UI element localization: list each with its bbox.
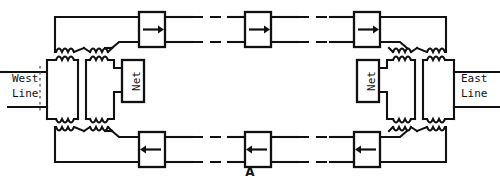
east-coil-tr-inner [423, 57, 454, 61]
east-coil-bl-outer [389, 127, 417, 131]
top-right-upper-wire [380, 17, 446, 50]
repeater-top-2[interactable] [245, 12, 271, 47]
west-net-label: Net [130, 71, 143, 91]
bottom-transmission-path [55, 129, 446, 167]
top-right-lower-wire [380, 42, 407, 48]
east-coil-tr-outer [417, 48, 446, 52]
west-coil-tl-inner [47, 57, 78, 61]
bot-left-upper-wire [112, 131, 139, 137]
east-coil-br-outer [417, 127, 446, 131]
west-line-label-line2: Line [12, 87, 39, 100]
west-net-box[interactable]: Net [122, 60, 144, 102]
east-coil-br-inner [423, 119, 454, 123]
bot-right-upper-wire [380, 131, 407, 137]
west-coil-br-inner [86, 92, 122, 123]
top-left-upper-wire [55, 17, 139, 50]
figure-caption: A [245, 165, 255, 179]
west-coil-tl-outer [55, 48, 84, 52]
west-coil-tr-inner [86, 57, 122, 69]
figure-root: Net [0, 0, 500, 179]
east-net-box[interactable]: Net [357, 60, 379, 102]
top-left-lower-wire [112, 42, 139, 48]
east-net-label: Net [365, 71, 378, 91]
east-coil-tl-outer [389, 48, 417, 52]
repeater-top-3[interactable] [354, 12, 380, 47]
east-line-label-line2: Line [461, 87, 488, 100]
west-line-label-line1: West [12, 72, 39, 85]
west-coil-bl-inner [47, 119, 78, 123]
repeater-bottom-2[interactable] [245, 132, 271, 167]
repeater-bottom-1[interactable] [139, 132, 165, 167]
bot-right-lower-wire [380, 129, 446, 162]
bot-left-lower-wire [55, 129, 139, 162]
east-line-label-line1: East [461, 72, 488, 85]
east-coil-tl-inner [379, 57, 415, 69]
repeater-bottom-3[interactable] [354, 132, 380, 167]
top-transmission-path [55, 12, 446, 50]
repeater-top-1[interactable] [139, 12, 165, 47]
east-coil-bl-inner [379, 92, 415, 123]
west-coil-bl-outer [55, 127, 84, 131]
